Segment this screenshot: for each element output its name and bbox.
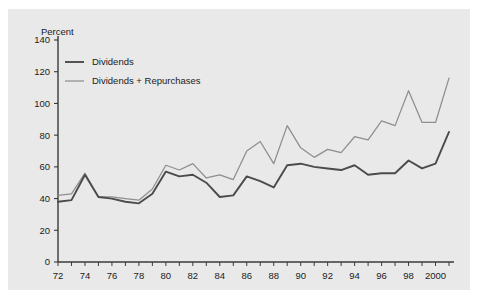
y-axis-ticks: 020406080100120140 [34,34,58,267]
x-tick-label: 94 [349,270,360,281]
y-tick-label: 80 [39,130,50,141]
line-chart-svg: Percent 020406080100120140 7274767880828… [8,9,470,290]
x-tick-label: 88 [268,270,279,281]
y-tick-label: 40 [39,193,50,204]
x-tick-label: 92 [322,270,333,281]
x-tick-label: 72 [53,270,64,281]
x-tick-label: 86 [241,270,252,281]
x-tick-label: 98 [403,270,414,281]
x-tick-label: 2000 [425,270,446,281]
x-axis-ticks: 72747678808284868890929496982000 [53,262,449,281]
legend-label: Dividends [92,56,134,67]
x-tick-label: 90 [295,270,306,281]
x-tick-label: 78 [134,270,145,281]
x-tick-label: 96 [376,270,387,281]
y-tick-label: 140 [34,34,50,45]
series-line-dividends [58,132,449,203]
x-tick-label: 76 [107,270,118,281]
x-tick-label: 82 [188,270,199,281]
y-tick-label: 20 [39,225,50,236]
y-tick-label: 100 [34,98,50,109]
legend-label: Dividends + Repurchases [92,75,201,86]
x-tick-label: 80 [161,270,172,281]
x-tick-label: 74 [80,270,91,281]
y-tick-label: 120 [34,66,50,77]
series-line-dividends-plus-repurchases [58,78,449,200]
chart-legend: DividendsDividends + Repurchases [65,56,201,86]
figure-panel: Percent 020406080100120140 7274767880828… [8,9,470,290]
chart-plot-area: Percent 020406080100120140 7274767880828… [8,9,470,290]
x-tick-label: 84 [215,270,226,281]
y-tick-label: 0 [45,256,50,267]
y-tick-label: 60 [39,161,50,172]
